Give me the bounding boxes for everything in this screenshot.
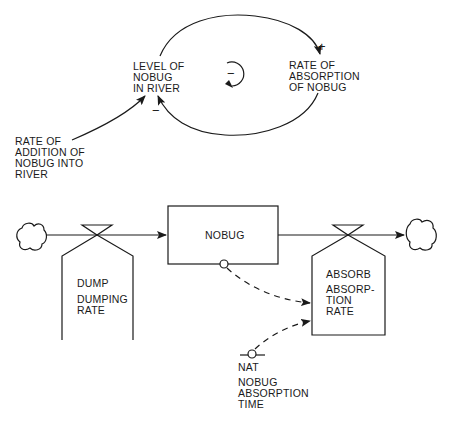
nobug-absorption-time-label: NOBUG ABSORPTION TIME (238, 377, 309, 410)
rate-of-addition-label: RATE OF ADDITION OF NOBUG INTO RIVER (15, 136, 85, 180)
nobug-level-label: NOBUG (205, 230, 245, 241)
level-pickoff-icon (220, 260, 228, 268)
loop-arrowhead-icon (225, 80, 233, 88)
outflow-valve-icon (333, 225, 363, 235)
link-level-to-absorption (160, 15, 320, 56)
constant-nat-icon (248, 350, 256, 358)
level-of-nobug-label: LEVEL OF NOBUG IN RIVER (133, 61, 184, 94)
loop-polarity-sign: − (227, 67, 235, 80)
dump-code-label: DUMP (77, 278, 109, 289)
diagram-canvas (0, 0, 452, 423)
nat-code-label: NAT (238, 362, 259, 373)
link-absorption-to-level (158, 93, 318, 135)
source-cloud-icon (17, 223, 47, 250)
info-link-level-to-absorb (227, 268, 310, 303)
absorb-code-label: ABSORB (326, 269, 371, 280)
negative-polarity-sign: − (152, 104, 160, 117)
sink-cloud-icon (406, 219, 436, 250)
rate-of-absorption-label: RATE OF ABSORPTION OF NOBUG (289, 60, 360, 93)
link-addition-to-level (72, 96, 145, 140)
dumping-rate-label: DUMPING RATE (77, 294, 128, 316)
causal-loop (72, 15, 320, 140)
positive-polarity-sign: + (318, 40, 326, 53)
absorption-rate-label: ABSORP- TION RATE (326, 284, 375, 317)
info-link-nat-to-absorb (255, 321, 310, 349)
